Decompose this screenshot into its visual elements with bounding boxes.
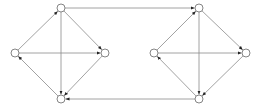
edge-B_left-to-B_top	[157, 11, 196, 50]
edge-B_top-to-B_right	[202, 11, 243, 50]
node-A_bottom	[57, 95, 65, 103]
edge-A_right-to-A_bottom	[64, 56, 102, 96]
edges-layer	[18, 8, 243, 99]
edge-A_left-to-A_top	[18, 11, 58, 50]
graph-canvas	[0, 0, 260, 112]
nodes-layer	[11, 4, 250, 103]
edge-B_bottom-to-B_left	[157, 56, 196, 96]
node-B_bottom	[195, 95, 203, 103]
edge-A_bottom-to-A_left	[18, 56, 58, 96]
edge-A_top-to-A_right	[64, 11, 102, 50]
node-B_left	[150, 49, 158, 57]
edge-B_right-to-B_bottom	[202, 56, 243, 96]
node-B_right	[242, 49, 250, 57]
node-A_left	[11, 49, 19, 57]
node-A_right	[101, 49, 109, 57]
node-A_top	[57, 4, 65, 12]
node-B_top	[195, 4, 203, 12]
